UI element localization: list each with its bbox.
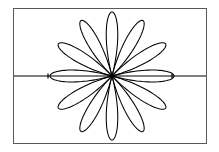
- rose-plot-canvas: [0, 0, 219, 152]
- figure-root: [0, 0, 219, 152]
- rose-petal-9: [106, 76, 118, 140]
- rose-petal-3: [106, 12, 118, 76]
